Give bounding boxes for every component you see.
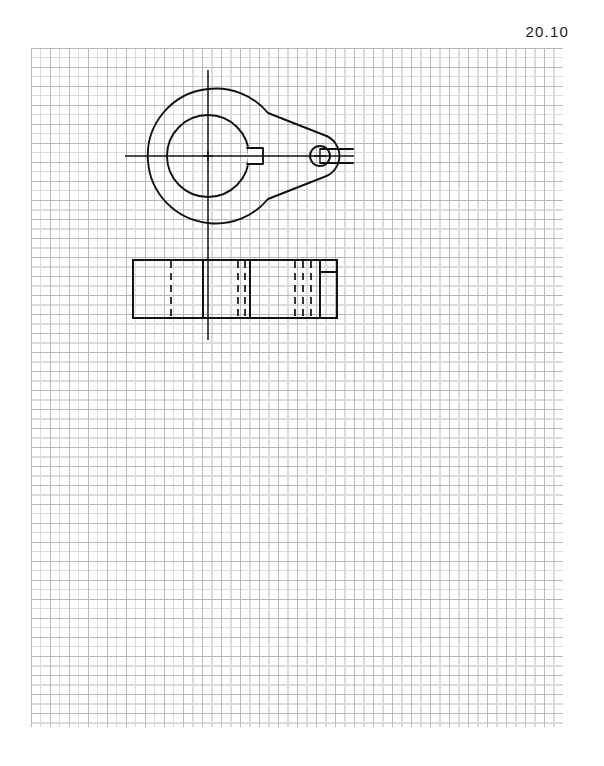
graph-paper-grid: [31, 48, 563, 727]
running-header: [14, 0, 314, 9]
drawing-sheet: 20.10: [0, 0, 604, 766]
figure-number-label: 20.10: [525, 23, 569, 40]
